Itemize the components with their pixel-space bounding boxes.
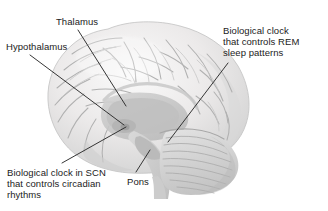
label-pons: Pons xyxy=(127,176,149,187)
label-scn-biological-clock: Biological clock in SCN that controls ci… xyxy=(7,167,106,200)
cortex-highlight xyxy=(76,36,164,80)
brain-diagram-figure: Thalamus Hypothalamus Biological clock t… xyxy=(0,0,328,211)
label-rem-biological-clock: Biological clock that controls REM sleep… xyxy=(223,25,299,58)
label-thalamus: Thalamus xyxy=(56,16,98,27)
label-hypothalamus: Hypothalamus xyxy=(6,41,67,52)
